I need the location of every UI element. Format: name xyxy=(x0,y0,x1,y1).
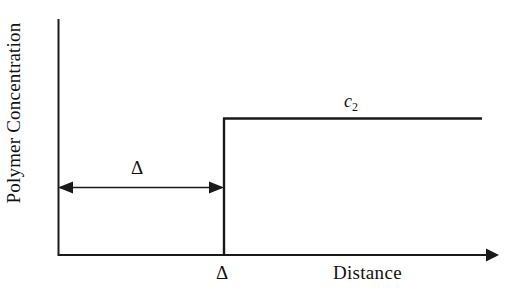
y-axis-title: Polymer Concentration xyxy=(4,0,40,264)
plateau-concentration-label: c2 xyxy=(344,92,358,113)
x-axis-title: Distance xyxy=(333,263,402,282)
plot-canvas xyxy=(0,0,516,302)
delta-span-arrowhead-left-icon xyxy=(58,182,73,194)
x-axis-arrowhead-icon xyxy=(486,249,499,262)
plateau-label-subscript: 2 xyxy=(352,100,358,114)
x-axis-tick-label-delta: Δ xyxy=(216,263,228,282)
delta-span-label: Δ xyxy=(131,158,143,177)
delta-span-arrowhead-right-icon xyxy=(209,182,224,194)
plateau-label-base: c xyxy=(344,91,352,111)
figure-container: Polymer Concentration Distance Δ Δ c2 xyxy=(0,0,516,302)
